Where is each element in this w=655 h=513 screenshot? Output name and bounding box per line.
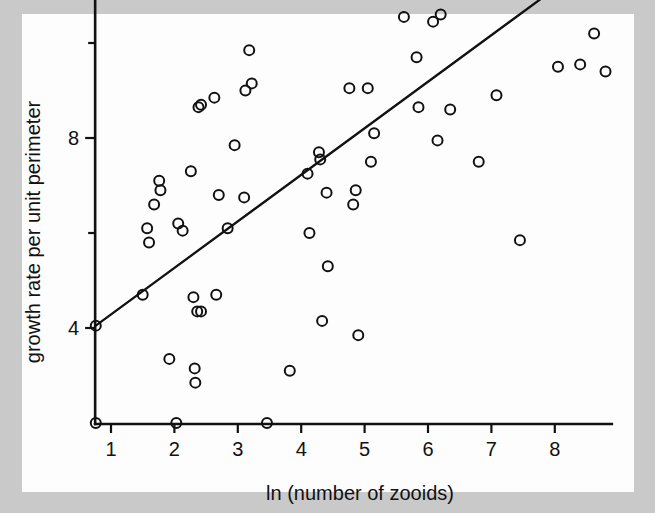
data-point: [322, 188, 332, 198]
y-axis-title: growth rate per unit perimeter: [22, 100, 44, 363]
figure-container: 12345678 481216 ln (number of zooids) gr…: [0, 0, 655, 513]
y-axis-ticks: [85, 0, 95, 328]
data-point: [230, 140, 240, 150]
x-axis-tick-labels: 12345678: [105, 438, 560, 460]
data-point: [601, 67, 611, 77]
data-point: [363, 83, 373, 93]
data-point: [413, 102, 423, 112]
data-point: [553, 62, 563, 72]
data-point: [142, 223, 152, 233]
x-tick-label: 7: [486, 438, 497, 460]
data-point: [575, 59, 585, 69]
scatter-plot: 12345678 481216 ln (number of zooids) gr…: [0, 0, 655, 513]
data-point: [317, 316, 327, 326]
data-point: [351, 185, 361, 195]
x-axis-title: ln (number of zooids): [266, 482, 454, 504]
data-point: [474, 157, 484, 167]
data-point: [323, 261, 333, 271]
data-point: [190, 363, 200, 373]
data-point: [196, 100, 206, 110]
data-point: [154, 176, 164, 186]
data-point: [155, 185, 165, 195]
data-point: [211, 290, 221, 300]
axes-group: 12345678 481216: [57, 0, 612, 460]
x-tick-label: 4: [296, 438, 307, 460]
data-point: [348, 200, 358, 210]
data-point: [412, 52, 422, 62]
data-point: [445, 105, 455, 115]
x-tick-label: 5: [359, 438, 370, 460]
data-point: [436, 10, 446, 20]
data-point: [149, 200, 159, 210]
data-point: [144, 238, 154, 248]
data-point: [190, 378, 200, 388]
data-point: [515, 235, 525, 245]
data-point: [491, 90, 501, 100]
data-point: [369, 128, 379, 138]
x-tick-label: 2: [169, 438, 180, 460]
x-tick-label: 1: [105, 438, 116, 460]
data-point: [304, 228, 314, 238]
data-point: [164, 354, 174, 364]
x-tick-label: 3: [232, 438, 243, 460]
data-point: [244, 45, 254, 55]
data-point: [186, 166, 196, 176]
data-point: [433, 135, 443, 145]
y-tick-label: 8: [68, 127, 79, 149]
data-point: [344, 83, 354, 93]
data-point: [239, 192, 249, 202]
data-point: [589, 29, 599, 39]
x-tick-label: 6: [422, 438, 433, 460]
data-point: [247, 78, 257, 88]
data-point: [188, 292, 198, 302]
y-axis-tick-labels: 481216: [57, 0, 79, 339]
data-point: [209, 93, 219, 103]
data-point: [285, 366, 295, 376]
regression-line: [96, 0, 601, 326]
data-point: [214, 190, 224, 200]
data-point: [399, 12, 409, 22]
data-point: [366, 157, 376, 167]
data-points-group: [91, 0, 611, 428]
x-tick-label: 8: [549, 438, 560, 460]
data-point: [353, 330, 363, 340]
y-tick-label: 4: [68, 317, 79, 339]
